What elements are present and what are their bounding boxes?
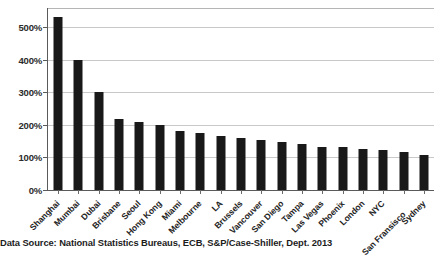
data-source-note: Data Source: National Statistics Bureaus… bbox=[0, 237, 441, 248]
x-axis-tick bbox=[363, 190, 364, 194]
x-axis-tick bbox=[282, 190, 283, 194]
y-axis-tick bbox=[43, 60, 47, 61]
y-axis-tick bbox=[43, 157, 47, 158]
y-axis-tick bbox=[43, 27, 47, 28]
x-axis-tick bbox=[343, 190, 344, 194]
x-axis-tick bbox=[261, 190, 262, 194]
x-axis-tick bbox=[241, 190, 242, 194]
x-axis-tick bbox=[322, 190, 323, 194]
x-axis-tick bbox=[160, 190, 161, 194]
x-axis-tick bbox=[99, 190, 100, 194]
x-axis-tick bbox=[180, 190, 181, 194]
x-axis-tick bbox=[58, 190, 59, 194]
x-axis-tick bbox=[424, 190, 425, 194]
x-axis-tick bbox=[78, 190, 79, 194]
y-axis-tick bbox=[43, 125, 47, 126]
y-axis-tick bbox=[43, 92, 47, 93]
y-axis-tick bbox=[43, 190, 47, 191]
x-axis-tick bbox=[200, 190, 201, 194]
x-axis-tick bbox=[302, 190, 303, 194]
x-axis-tick bbox=[139, 190, 140, 194]
x-axis-tick bbox=[383, 190, 384, 194]
x-axis-tick bbox=[404, 190, 405, 194]
x-axis-tick bbox=[119, 190, 120, 194]
x-axis-tick bbox=[221, 190, 222, 194]
